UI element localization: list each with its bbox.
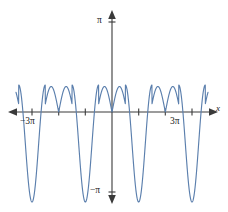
- coordinate-plot: [0, 0, 228, 212]
- x-axis-label-pos-3pi: 3π: [170, 117, 180, 127]
- y-axis-top-arrow-icon: [108, 10, 116, 19]
- x-axis-label-neg-3pi: −3π: [20, 117, 35, 127]
- y-axis-label-neg-pi: −π: [90, 186, 100, 196]
- x-axis-name-label: x: [216, 104, 220, 113]
- y-axis-bottom-arrow-icon: [108, 195, 116, 204]
- graph-figure: −3π 3π π −π x: [0, 0, 228, 212]
- y-axis-label-pi: π: [97, 16, 102, 26]
- x-axis-left-arrow-icon: [8, 108, 17, 116]
